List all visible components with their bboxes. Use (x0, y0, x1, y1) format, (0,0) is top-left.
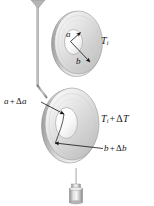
label-outer-radius-expanded-symbol: b (104, 143, 109, 153)
label-inner-radius-expanded-delta-symbol: a (22, 96, 27, 106)
label-outer-radius-expanded: b+Δb (104, 144, 127, 153)
bottom-probe-group (70, 168, 83, 204)
washer-initial-shape (52, 11, 103, 77)
thermal-expansion-figure: a b Ti a+Δa Ti+ΔT b+Δb (0, 0, 154, 206)
label-outer-radius-expanded-operator: + (109, 143, 116, 153)
probe-collar-top (70, 187, 83, 190)
label-temperature-expanded-delta: Δ (116, 113, 123, 124)
label-inner-radius-expanded-symbol: a (4, 96, 9, 106)
label-temperature-expanded-delta-symbol: T (123, 113, 129, 124)
label-inner-radius: a (66, 30, 71, 39)
label-temperature-initial: Ti (101, 36, 109, 47)
label-temperature-initial-subscript: i (107, 39, 109, 46)
hanging-wire-group (31, 0, 47, 98)
label-temperature-expanded: Ti+ΔT (101, 114, 129, 125)
probe-collar-bottom (70, 201, 83, 204)
label-inner-radius-expanded-operator: + (9, 96, 16, 106)
wire-bent-segment (38, 86, 47, 98)
label-outer-radius: b (76, 57, 81, 66)
wire-vertical-segment (37, 7, 39, 86)
probe-needle (75, 168, 77, 185)
label-outer-radius-expanded-delta-symbol: b (122, 143, 127, 153)
label-inner-radius-expanded: a+Δa (4, 97, 27, 106)
washer-heated-shape (41, 88, 103, 163)
